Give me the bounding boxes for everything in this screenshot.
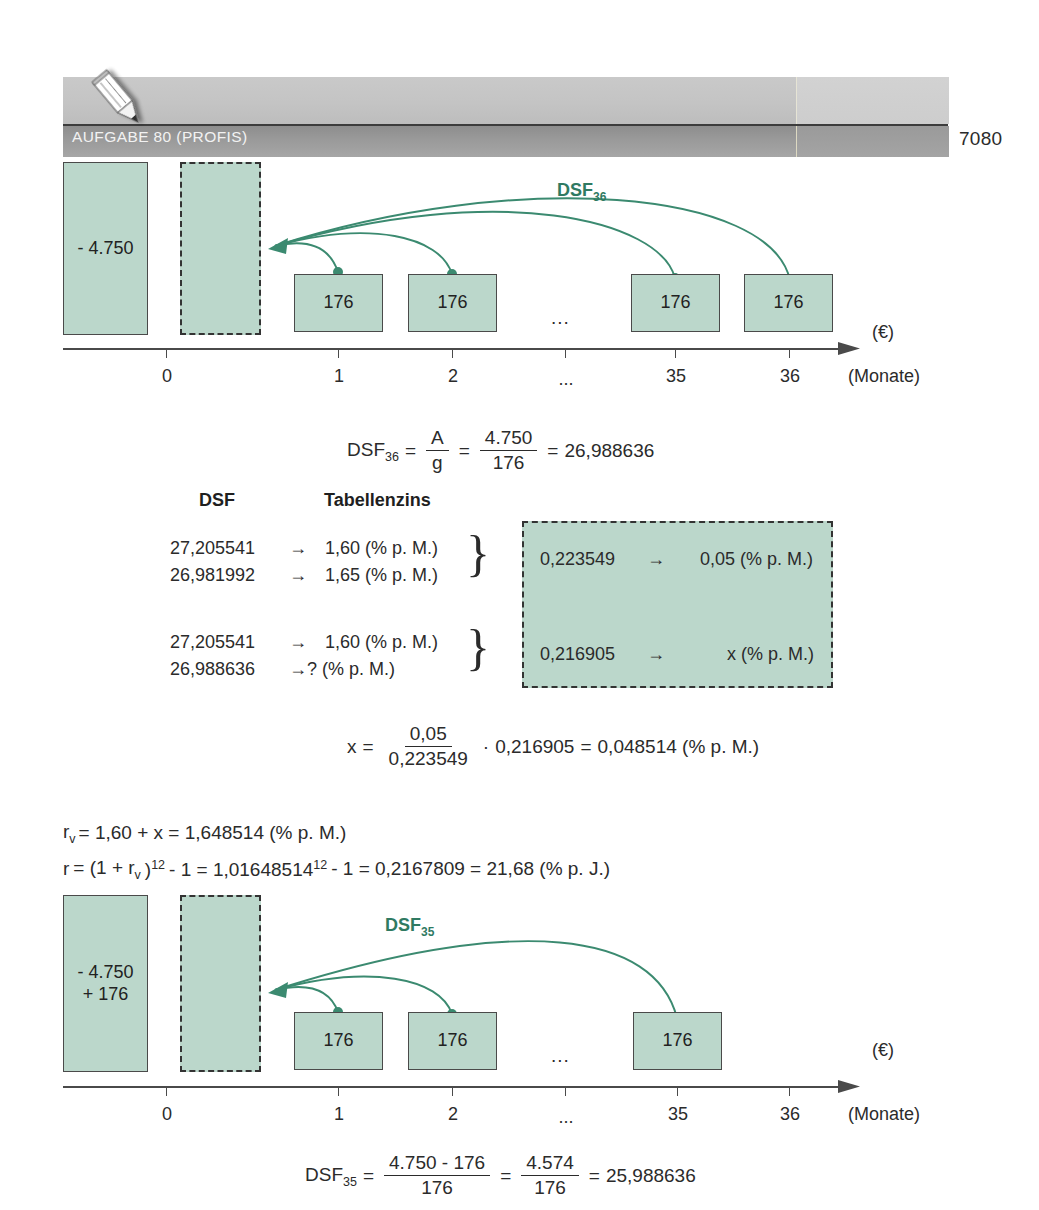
fraction-denominator: 176 bbox=[529, 1176, 571, 1199]
bar-value-line1: - 4.750 bbox=[77, 962, 133, 984]
fraction-denominator: 176 bbox=[416, 1176, 458, 1199]
fraction-numerator: 4.750 - 176 bbox=[384, 1152, 490, 1176]
formula-dsf35-result: 25,988636 bbox=[606, 1165, 696, 1187]
time-axis-2 bbox=[63, 1086, 848, 1088]
formula-dsf35: DSF35 = 4.750 - 176 176 = 4.574 176 = 25… bbox=[305, 1152, 696, 1200]
formula-dsf35-fraction-2: 4.574 176 bbox=[521, 1152, 579, 1200]
tick-gap-d2 bbox=[565, 1086, 566, 1096]
value-axis-unit-2: (€) bbox=[872, 1040, 894, 1061]
bar-value: 176 bbox=[662, 1030, 692, 1052]
tick-0-d2 bbox=[166, 1086, 167, 1096]
formula-dsf35-fraction-1: 4.750 - 176 176 bbox=[384, 1152, 490, 1200]
bar-month-1-d2: 176 bbox=[294, 1012, 383, 1070]
formula-dsf35-eq3: = bbox=[589, 1165, 600, 1187]
cashflow-diagram-2: DSF35 - 4.750 + 176 176 176 176 ... 0 1 … bbox=[0, 0, 1039, 1210]
tick-label-gap-d2: ... bbox=[558, 1107, 573, 1128]
tick-label-0-d2: 0 bbox=[162, 1104, 172, 1125]
formula-dsf35-lhs: DSF35 bbox=[305, 1164, 357, 1189]
bars-gap-ellipsis-2: ... bbox=[551, 1045, 570, 1067]
tick-1-d2 bbox=[338, 1086, 339, 1096]
tick-36-d2 bbox=[789, 1086, 790, 1096]
tick-label-36-d2: 36 bbox=[780, 1104, 800, 1125]
tick-label-35-d2: 35 bbox=[668, 1104, 688, 1125]
discount-arrows-2 bbox=[0, 890, 1039, 1100]
worksheet-page: AUFGABE 80 (PROFIS) 7080 bbox=[0, 0, 1039, 1210]
bar-month-2-d2: 176 bbox=[408, 1012, 497, 1070]
time-axis-arrow-2 bbox=[838, 1077, 862, 1097]
bar-month-35-d2: 176 bbox=[633, 1012, 722, 1070]
tick-label-1-d2: 1 bbox=[334, 1104, 344, 1125]
time-axis-unit-2: (Monate) bbox=[848, 1104, 920, 1125]
fraction-numerator: 4.574 bbox=[521, 1152, 579, 1176]
bar-present-value-2 bbox=[180, 895, 261, 1072]
formula-dsf35-eq1: = bbox=[363, 1165, 374, 1187]
tick-2-d2 bbox=[452, 1086, 453, 1096]
bar-value: 176 bbox=[437, 1030, 467, 1052]
formula-dsf35-eq2: = bbox=[500, 1165, 511, 1187]
dsf35-curve-label: DSF35 bbox=[385, 915, 434, 939]
tick-35-d2 bbox=[677, 1086, 678, 1096]
bar-value: 176 bbox=[323, 1030, 353, 1052]
bar-value-line2: + 176 bbox=[83, 984, 129, 1006]
tick-label-2-d2: 2 bbox=[448, 1104, 458, 1125]
bar-outflow-2: - 4.750 + 176 bbox=[63, 895, 148, 1072]
